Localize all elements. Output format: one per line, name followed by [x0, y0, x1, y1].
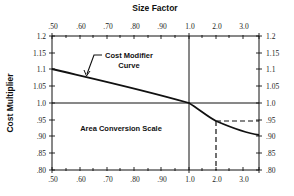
svg-text:1.0: 1.0	[185, 22, 195, 31]
svg-text:.95: .95	[266, 116, 276, 125]
svg-text:1.15: 1.15	[33, 49, 46, 58]
svg-text:.85: .85	[266, 149, 276, 158]
svg-text:.90: .90	[37, 132, 47, 141]
reference-lines	[52, 36, 259, 170]
chart-title: Size Factor	[132, 3, 178, 13]
svg-text:1.0: 1.0	[266, 99, 276, 108]
svg-text:.95: .95	[37, 116, 47, 125]
svg-text:.80: .80	[37, 166, 47, 175]
x-tick-labels-bottom: .50 .60 .70 .80 .90 1.0 2.0 3.0	[48, 175, 249, 184]
annotation-area-conversion-scale: Area Conversion Scale	[80, 124, 162, 133]
svg-text:.60: .60	[76, 175, 86, 184]
annotation-arrow	[84, 55, 102, 76]
svg-text:.50: .50	[48, 22, 58, 31]
svg-text:.80: .80	[130, 22, 140, 31]
svg-text:1.0: 1.0	[185, 175, 195, 184]
svg-text:1.1: 1.1	[266, 65, 276, 74]
svg-text:1.15: 1.15	[266, 49, 279, 58]
svg-text:1.0: 1.0	[37, 99, 47, 108]
svg-text:2.0: 2.0	[212, 22, 222, 31]
cost-multiplier-chart: Size Factor Cost Multiplier	[0, 0, 294, 196]
svg-text:1.05: 1.05	[266, 82, 279, 91]
svg-text:.90: .90	[266, 132, 276, 141]
svg-text:.80: .80	[130, 175, 140, 184]
svg-text:.85: .85	[37, 149, 47, 158]
svg-text:1.05: 1.05	[33, 82, 46, 91]
svg-text:.90: .90	[157, 22, 167, 31]
y-tick-labels-left: 1.2 1.15 1.1 1.05 1.0 .95 .90 .85 .80	[33, 32, 46, 175]
svg-text:1.2: 1.2	[37, 32, 47, 41]
svg-text:.50: .50	[48, 175, 58, 184]
y-axis-label: Cost Multiplier	[5, 73, 15, 133]
annotation-cost-modifier: Cost Modifier	[105, 51, 153, 60]
svg-text:.70: .70	[103, 22, 113, 31]
svg-text:.80: .80	[266, 166, 276, 175]
svg-text:.70: .70	[103, 175, 113, 184]
svg-text:1.1: 1.1	[37, 65, 47, 74]
y-tick-labels-right: 1.2 1.15 1.1 1.05 1.0 .95 .90 .85 .80	[266, 32, 279, 175]
x-tick-labels-top: .50 .60 .70 .80 .90 1.0 2.0 3.0	[48, 22, 249, 31]
svg-text:1.2: 1.2	[266, 32, 276, 41]
svg-text:.90: .90	[157, 175, 167, 184]
svg-text:3.0: 3.0	[239, 175, 249, 184]
annotation-curve: Curve	[118, 61, 139, 70]
svg-text:2.0: 2.0	[212, 175, 222, 184]
svg-text:3.0: 3.0	[239, 22, 249, 31]
svg-text:.60: .60	[76, 22, 86, 31]
